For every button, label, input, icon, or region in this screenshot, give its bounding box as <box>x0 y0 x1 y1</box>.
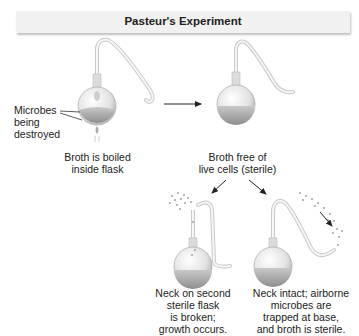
flask-sterile <box>217 42 293 125</box>
caption-intact-neck: Neck intact; airborne microbes are trapp… <box>244 287 358 335</box>
leader-line <box>60 111 80 112</box>
microbes-annotation: Microbes being destroyed <box>14 104 60 140</box>
flask-boiling <box>78 40 153 142</box>
leader-line <box>60 113 82 120</box>
caption-sterile: Broth free of live cells (sterile) <box>180 151 295 175</box>
arrow-down-right <box>249 180 266 194</box>
caption-broken-neck: Neck on second sterile flask is broken; … <box>150 287 236 335</box>
flask-intact-neck <box>254 192 343 287</box>
arrow-down-left <box>212 180 226 193</box>
caption-boil: Broth is boiled inside flask <box>50 151 145 175</box>
flask-broken-neck <box>169 192 230 289</box>
